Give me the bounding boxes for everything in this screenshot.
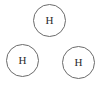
atom-circle-bottom-right: H xyxy=(62,46,95,79)
atom-label-bottom-left: H xyxy=(19,55,27,66)
atom-label-bottom-right: H xyxy=(75,57,83,68)
atom-circle-top: H xyxy=(33,4,66,37)
atom-label-top: H xyxy=(46,15,54,26)
atom-circle-bottom-left: H xyxy=(6,44,39,77)
atom-diagram-canvas: H H H xyxy=(0,0,102,85)
